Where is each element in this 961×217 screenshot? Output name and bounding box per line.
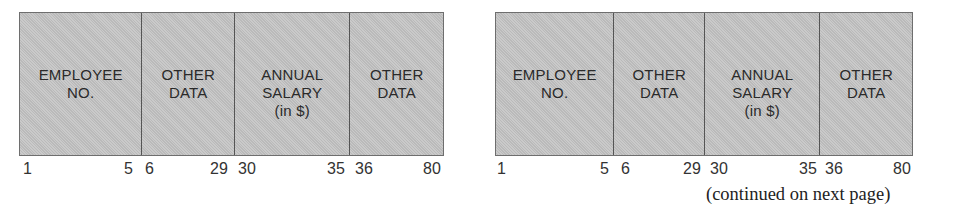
continuation-note: (continued on next page)	[706, 184, 890, 205]
column-number: 6	[621, 160, 630, 178]
column-number: 5	[600, 160, 609, 178]
field-other-data: OTHER DATA	[350, 13, 443, 155]
field-employee-no: EMPLOYEE NO.	[496, 13, 614, 155]
column-number: 29	[210, 160, 228, 178]
field-label: OTHER DATA	[839, 66, 893, 102]
column-number: 36	[825, 160, 843, 178]
field-label: OTHER DATA	[370, 66, 424, 102]
column-number: 30	[710, 160, 728, 178]
column-number: 35	[799, 160, 817, 178]
field-label: EMPLOYEE NO.	[39, 66, 123, 102]
field-label: OTHER DATA	[161, 66, 215, 102]
column-number: 5	[124, 160, 133, 178]
column-numbers-right: 1 5 6 29 30 35 36 80	[480, 160, 961, 180]
column-number: 1	[497, 160, 506, 178]
field-annual-salary: ANNUAL SALARY (in $)	[235, 13, 350, 155]
column-number: 1	[23, 160, 32, 178]
column-number: 29	[683, 160, 701, 178]
field-annual-salary: ANNUAL SALARY (in $)	[705, 13, 820, 155]
column-number: 80	[423, 160, 441, 178]
column-number: 35	[327, 160, 345, 178]
field-label: OTHER DATA	[632, 66, 686, 102]
column-numbers-left: 1 5 6 29 30 35 36 80	[0, 160, 480, 180]
field-label: ANNUAL SALARY (in $)	[731, 66, 793, 120]
column-number: 36	[355, 160, 373, 178]
field-label: EMPLOYEE NO.	[513, 66, 597, 102]
field-other-data: OTHER DATA	[142, 13, 235, 155]
record-layout-right: EMPLOYEE NO. OTHER DATA ANNUAL SALARY (i…	[495, 12, 913, 156]
field-employee-no: EMPLOYEE NO.	[20, 13, 142, 155]
column-number: 30	[238, 160, 256, 178]
field-other-data: OTHER DATA	[614, 13, 705, 155]
field-other-data: OTHER DATA	[820, 13, 912, 155]
column-number: 80	[893, 160, 911, 178]
record-layout-left: EMPLOYEE NO. OTHER DATA ANNUAL SALARY (i…	[19, 12, 444, 156]
column-number: 6	[145, 160, 154, 178]
field-label: ANNUAL SALARY (in $)	[261, 66, 323, 120]
